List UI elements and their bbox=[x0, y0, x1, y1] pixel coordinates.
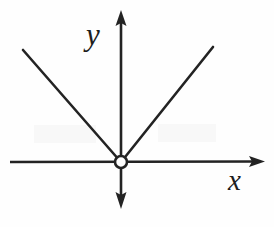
curve-left-branch bbox=[23, 50, 117, 157]
coordinate-graph-figure: y x bbox=[0, 0, 274, 227]
x-axis-label: x bbox=[228, 166, 241, 195]
x-axis bbox=[10, 156, 265, 167]
curve-right-branch bbox=[126, 47, 214, 157]
x-axis-line bbox=[10, 162, 258, 163]
y-axis-label: y bbox=[86, 19, 100, 50]
y-axis bbox=[116, 10, 127, 209]
open-point-marker-icon bbox=[115, 156, 127, 168]
